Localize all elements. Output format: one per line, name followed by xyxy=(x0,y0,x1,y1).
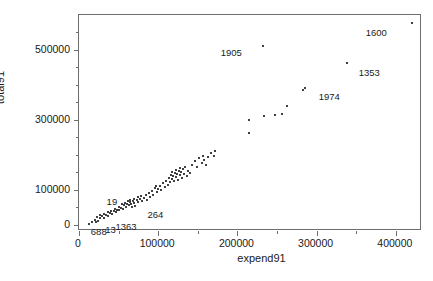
y-axis-title: total91 xyxy=(0,71,6,104)
x-axis-tick-label: 300000 xyxy=(276,238,356,249)
point-label: 13 xyxy=(105,225,116,235)
data-point xyxy=(95,221,97,223)
x-axis-title: expend91 xyxy=(0,252,433,264)
y-axis-tick xyxy=(74,50,79,51)
point-label: 1600 xyxy=(366,28,387,38)
y-axis-minor-tick xyxy=(76,172,79,173)
x-axis-tick-label: 0 xyxy=(38,238,118,249)
data-point xyxy=(286,105,288,107)
data-point xyxy=(205,164,207,166)
y-axis-minor-tick xyxy=(76,85,79,86)
data-point xyxy=(198,157,200,159)
data-point xyxy=(248,132,250,134)
data-point xyxy=(177,179,179,181)
data-point xyxy=(183,173,185,175)
y-axis-minor-tick xyxy=(76,207,79,208)
data-point xyxy=(164,186,166,188)
data-point xyxy=(411,22,413,24)
data-point xyxy=(184,166,186,168)
data-point xyxy=(207,156,209,158)
data-point xyxy=(157,188,159,190)
x-axis-tick xyxy=(317,231,318,236)
plot-frame: 160013531974190526419136313688 xyxy=(78,14,421,230)
point-label: 19 xyxy=(107,197,118,207)
y-axis-minor-tick xyxy=(76,137,79,138)
data-point xyxy=(162,182,164,184)
data-point xyxy=(115,211,117,213)
y-axis-minor-tick xyxy=(76,32,79,33)
data-point xyxy=(140,195,142,197)
data-point xyxy=(189,172,191,174)
data-point xyxy=(146,199,148,201)
data-point xyxy=(182,168,184,170)
data-point xyxy=(274,114,276,116)
y-axis-minor-tick xyxy=(76,155,79,156)
point-label: 688 xyxy=(91,227,107,237)
data-point xyxy=(181,177,183,179)
x-axis-tick xyxy=(79,231,80,236)
data-point xyxy=(122,208,124,210)
point-label: 264 xyxy=(148,210,164,220)
data-point xyxy=(155,185,157,187)
x-axis-minor-tick xyxy=(277,231,278,234)
y-axis-tick-label: 0 xyxy=(0,219,70,229)
data-point xyxy=(302,89,304,91)
x-axis-minor-tick xyxy=(198,231,199,234)
data-point xyxy=(179,174,181,176)
y-axis-tick xyxy=(74,120,79,121)
scatter-plot: 160013531974190526419136313688 010000030… xyxy=(0,0,433,281)
data-point xyxy=(97,220,99,222)
data-point xyxy=(281,113,283,115)
x-axis-tick xyxy=(158,231,159,236)
data-point xyxy=(167,184,169,186)
data-point xyxy=(203,159,205,161)
data-point xyxy=(134,205,136,207)
data-point xyxy=(133,202,135,204)
y-axis-tick-label: 100000 xyxy=(0,184,70,194)
data-point xyxy=(169,181,171,183)
x-axis-minor-tick xyxy=(356,231,357,234)
y-axis-minor-tick xyxy=(76,102,79,103)
data-point xyxy=(143,197,145,199)
data-point xyxy=(196,166,198,168)
data-points-layer xyxy=(79,15,420,229)
data-point xyxy=(103,217,105,219)
data-point xyxy=(145,194,147,196)
data-point xyxy=(213,155,215,157)
data-point xyxy=(171,178,173,180)
data-point xyxy=(107,215,109,217)
point-label: 1905 xyxy=(221,48,242,58)
data-point xyxy=(346,62,348,64)
x-axis-tick-label: 100000 xyxy=(117,238,197,249)
x-axis-tick-label: 400000 xyxy=(355,238,433,249)
data-point xyxy=(186,175,188,177)
data-point xyxy=(91,221,93,223)
data-point xyxy=(160,189,162,191)
data-point xyxy=(151,190,153,192)
data-point xyxy=(248,119,250,121)
y-axis-minor-tick xyxy=(76,67,79,68)
point-label: 1363 xyxy=(115,222,136,232)
data-point xyxy=(152,194,154,196)
y-axis-tick xyxy=(74,225,79,226)
data-point xyxy=(148,192,150,194)
data-point xyxy=(194,160,196,162)
data-point xyxy=(156,191,158,193)
data-point xyxy=(191,164,193,166)
y-axis-tick-label: 500000 xyxy=(0,44,70,54)
point-label: 1353 xyxy=(359,68,380,78)
data-point xyxy=(96,216,98,218)
data-point xyxy=(159,185,161,187)
x-axis-tick-label: 200000 xyxy=(196,238,276,249)
x-axis-title-text: expend91 xyxy=(237,252,285,264)
point-label: 1974 xyxy=(319,92,340,102)
data-point xyxy=(214,150,216,152)
data-point xyxy=(173,180,175,182)
data-point xyxy=(165,180,167,182)
data-point xyxy=(137,201,139,203)
data-point xyxy=(131,206,133,208)
data-point xyxy=(202,155,204,157)
data-point xyxy=(263,115,265,117)
data-point xyxy=(175,176,177,178)
data-point xyxy=(130,203,132,205)
